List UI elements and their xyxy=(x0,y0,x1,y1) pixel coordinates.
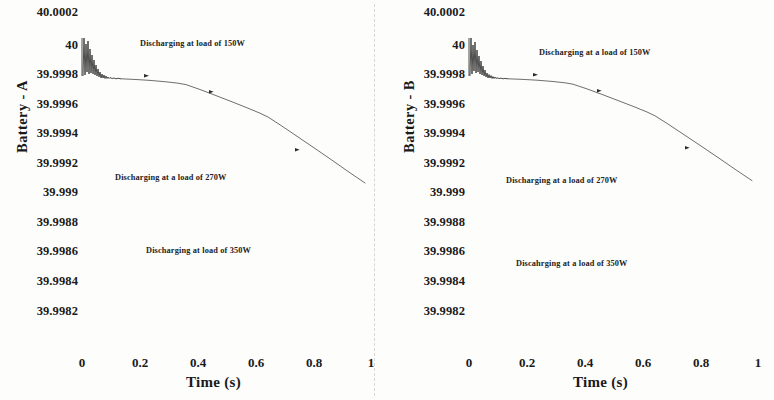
x-tick-label: 0 xyxy=(62,355,102,371)
annotation-load-150w: Discharging at load of 150W xyxy=(140,39,245,48)
annotation-load-350w: Discahrging at a load of 350W xyxy=(516,259,628,268)
y-tick-label: 39.9986 xyxy=(0,244,78,259)
y-axis-tick-labels: 40.0002 40 39.9998 39.9996 39.9994 39.99… xyxy=(0,0,78,400)
y-tick-label: 39.9998 xyxy=(0,67,78,82)
annotation-load-270w: Discharging at a load of 270W xyxy=(115,173,227,182)
x-axis-title: Time (s) xyxy=(0,374,387,391)
annotation-load-350w: Discharging at load of 350W xyxy=(146,246,251,255)
x-axis-title: Time (s) xyxy=(387,374,774,391)
x-tick-label: 0.8 xyxy=(681,355,721,371)
chart-panel-battery-a: Battery - A 40.0002 40 39.9998 39.9996 3… xyxy=(0,0,387,400)
y-tick-label: 39.9988 xyxy=(385,215,465,230)
curve-marker-icon xyxy=(533,73,538,77)
x-tick-label: 0.8 xyxy=(294,355,334,371)
y-tick-label: 39.9996 xyxy=(0,97,78,112)
y-tick-label: 39.999 xyxy=(0,185,78,200)
x-tick-label: 0.4 xyxy=(178,355,218,371)
y-tick-label: 40.0002 xyxy=(385,5,465,20)
curve-marker-icon xyxy=(597,89,602,92)
startup-transient-trace xyxy=(470,38,508,79)
annotation-load-150w: Discharging at a load of 150W xyxy=(539,48,651,57)
curve-marker-icon xyxy=(144,74,149,78)
annotation-load-270w: Discharging at a load of 270W xyxy=(506,176,618,185)
y-tick-label: 40 xyxy=(0,38,78,53)
x-tick-label: 1 xyxy=(738,355,774,371)
discharge-voltage-curve xyxy=(121,79,365,183)
y-tick-label: 39.9984 xyxy=(385,274,465,289)
y-tick-label: 39.9982 xyxy=(385,304,465,319)
y-tick-label: 39.9992 xyxy=(0,156,78,171)
curve-marker-icon xyxy=(209,90,214,93)
curve-marker-icon xyxy=(295,148,300,151)
y-tick-label: 39.9988 xyxy=(0,215,78,230)
x-tick-label: 0.4 xyxy=(565,355,605,371)
y-tick-label: 39.9994 xyxy=(385,126,465,141)
x-tick-label: 0.6 xyxy=(623,355,663,371)
y-tick-label: 39.9996 xyxy=(385,97,465,112)
x-tick-label: 0.2 xyxy=(507,355,547,371)
curve-marker-icon xyxy=(685,146,690,149)
chart-panel-battery-b: Battery - B 40.0002 40 39.9998 39.9996 3… xyxy=(387,0,774,400)
x-tick-label: 0.6 xyxy=(236,355,276,371)
y-tick-label: 40.0002 xyxy=(0,5,78,20)
x-tick-label: 1 xyxy=(351,355,391,371)
x-tick-label: 0 xyxy=(449,355,489,371)
y-tick-label: 39.9986 xyxy=(385,244,465,259)
y-tick-label: 39.9992 xyxy=(385,156,465,171)
y-tick-label: 39.9984 xyxy=(0,274,78,289)
y-tick-label: 39.9982 xyxy=(0,304,78,319)
y-tick-label: 39.999 xyxy=(385,185,465,200)
y-tick-label: 40 xyxy=(385,38,465,53)
y-tick-label: 39.9994 xyxy=(0,126,78,141)
discharge-voltage-curve xyxy=(508,79,752,181)
x-tick-label: 0.2 xyxy=(120,355,160,371)
y-axis-tick-labels: 40.0002 40 39.9998 39.9996 39.9994 39.99… xyxy=(387,0,465,400)
y-tick-label: 39.9998 xyxy=(385,67,465,82)
startup-transient-trace xyxy=(83,38,121,79)
